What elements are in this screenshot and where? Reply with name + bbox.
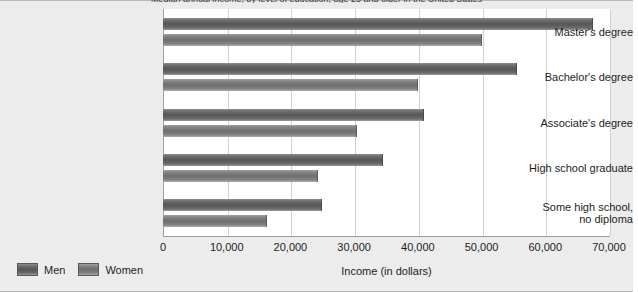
x-tick-label: 20,000 (260, 241, 320, 253)
x-tick-label: 50,000 (452, 241, 512, 253)
category-label-line: Master's degree (475, 26, 633, 38)
bar-women-2 (163, 125, 357, 137)
x-tick-label: 60,000 (515, 241, 575, 253)
category-label-line: Some high school, (475, 201, 633, 213)
bar-men-2 (163, 109, 424, 121)
bar-men-3 (163, 154, 383, 166)
legend-item-women: Women (78, 263, 143, 276)
bar-women-4 (163, 215, 267, 227)
category-label: Associate's degree (475, 117, 633, 129)
category-label-line: no diploma (475, 213, 633, 225)
bar-men-4 (163, 199, 322, 211)
category-label-line: Associate's degree (475, 117, 633, 129)
x-tick-label: 10,000 (197, 241, 257, 253)
category-label: Master's degree (475, 26, 633, 38)
x-axis-title: Income (in dollars) (163, 265, 610, 277)
category-label: Some high school,no diploma (475, 201, 633, 225)
category-label: Bachelor's degree (475, 71, 633, 83)
chart-title: Median annual income, by level of educat… (0, 0, 633, 3)
legend-label-women: Women (105, 264, 143, 276)
x-tick-label: 70,000 (579, 241, 638, 253)
x-tick-label: 40,000 (388, 241, 448, 253)
bar-men-1 (163, 63, 517, 75)
category-label: High school graduate (475, 162, 633, 174)
chart-legend: Men Women (17, 263, 149, 276)
legend-item-men: Men (17, 263, 65, 276)
legend-swatch-women (78, 263, 99, 276)
x-axis-line (163, 236, 610, 237)
bar-women-3 (163, 170, 318, 182)
category-label-line: High school graduate (475, 162, 633, 174)
x-tick-label: 30,000 (324, 241, 384, 253)
legend-swatch-men (17, 263, 38, 276)
x-tick-label: 0 (133, 241, 193, 253)
bar-women-0 (163, 34, 482, 46)
bar-women-1 (163, 79, 418, 91)
category-label-line: Bachelor's degree (475, 71, 633, 83)
legend-label-men: Men (44, 264, 65, 276)
